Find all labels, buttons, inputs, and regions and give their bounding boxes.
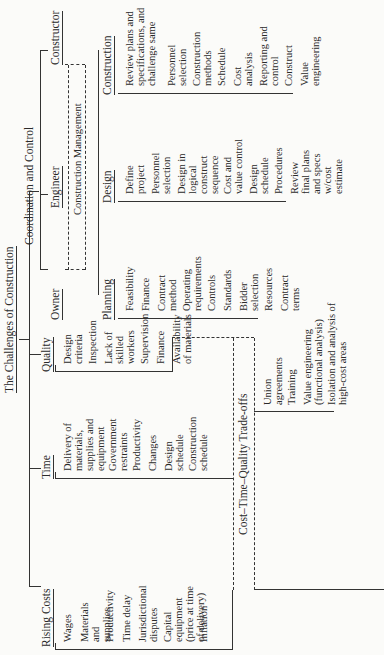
list-item: Training [286, 369, 297, 405]
list-item: Personnel selection [166, 36, 188, 86]
list-item: Construction schedule [187, 411, 209, 471]
diagram-title: The Challenges of Construction [4, 246, 17, 393]
construction-management-label: Construction Management [72, 103, 83, 215]
list-item: Changes [147, 435, 158, 471]
tradeoffs-header: Cost–Time–Quality Trade-offs [238, 393, 249, 535]
coordination-header: Coordination and Control [24, 127, 35, 245]
design-spine [118, 201, 286, 202]
list-item: Wages [62, 614, 73, 642]
tradeoffs-spine [254, 589, 384, 590]
list-item: Delivery of materials, supplies and equi… [62, 411, 106, 471]
list-item: Value engineering [299, 31, 321, 86]
list-item: Construction methods [191, 26, 213, 86]
tradeoffs-top-border [233, 338, 234, 590]
list-item: Finance [140, 278, 151, 311]
list-item: Productivity [131, 419, 142, 471]
quality-header: Quality [41, 338, 54, 373]
list-item: Jurisdictional disputes [137, 582, 159, 642]
time-spine [55, 478, 233, 479]
connector [55, 643, 56, 650]
tradeoffs-list-spine [254, 411, 334, 412]
list-item: Personnel selection [150, 149, 172, 194]
planning-header: Planning [102, 279, 115, 320]
tradeoffs-right-border [172, 337, 254, 338]
list-item: Inspection [87, 320, 98, 364]
list-item: Design criteria [62, 314, 84, 364]
construction-header: Construction [102, 36, 115, 95]
list-item: Isolation and analysis of high-cost area… [326, 295, 348, 405]
list-item: Contract terms [279, 266, 301, 311]
list-item: Availability of materials [171, 304, 193, 364]
list-item: Construct [283, 45, 294, 86]
list-item: Review plans and specifications, and cha… [124, 0, 157, 86]
role-owner: Owner [50, 289, 63, 320]
list-item: Design schedule [248, 149, 270, 194]
list-item: Procedures [273, 147, 284, 194]
connector [29, 586, 41, 587]
list-item: Bidder selection [238, 266, 260, 311]
design-header: Design [102, 170, 115, 203]
list-item: Operating requirements [181, 251, 203, 311]
connector [55, 365, 56, 372]
connector [40, 50, 48, 51]
role-engineer: Engineer [50, 166, 63, 208]
connector [29, 192, 30, 587]
rising-costs-header: Rising Costs [41, 589, 54, 647]
cm-top-border [68, 65, 69, 270]
construction-spine [118, 93, 293, 94]
planning-spine [118, 318, 258, 319]
list-item: Productivity [104, 590, 115, 642]
list-item: Cost analysis [232, 46, 254, 86]
list-item: Value engineering (functional analysis) [302, 310, 324, 405]
connector [55, 472, 56, 479]
list-item: Reporting and control [258, 26, 280, 86]
connector [40, 50, 41, 270]
list-item: Feasibility [124, 267, 135, 311]
list-item: Resources [263, 268, 274, 311]
list-item: Inflation [198, 606, 209, 642]
list-item: Cost and value control [222, 134, 244, 194]
list-item: Standards [222, 270, 233, 311]
rising-costs-spine [55, 649, 233, 650]
tradeoffs-bottom-border [254, 338, 255, 590]
list-item: Contract method [156, 266, 178, 311]
connector [98, 50, 99, 295]
list-item: Schedule [216, 48, 227, 87]
list-item: Controls [206, 275, 217, 311]
connector [40, 269, 48, 270]
list-item: Finance [155, 331, 166, 364]
list-item: Define project [124, 149, 146, 194]
quality-spine [55, 371, 173, 372]
list-item: Time delay [121, 595, 132, 642]
list-item: Supervision [139, 314, 150, 364]
cm-bottom-border [85, 65, 86, 270]
list-item: Government restraints [107, 411, 129, 471]
list-item: Design schedule [163, 431, 185, 471]
connector [40, 194, 48, 195]
role-constructor: Constructor [50, 11, 63, 65]
time-header: Time [41, 455, 54, 479]
list-item: Lack of skilled workers [103, 316, 136, 364]
list-item: Union agreements [262, 345, 284, 405]
list-item: Review final plans and specs w/cost esti… [289, 144, 344, 194]
list-item: Design in logical construct sequence [176, 149, 220, 194]
connector [232, 590, 233, 650]
connector [19, 339, 29, 340]
